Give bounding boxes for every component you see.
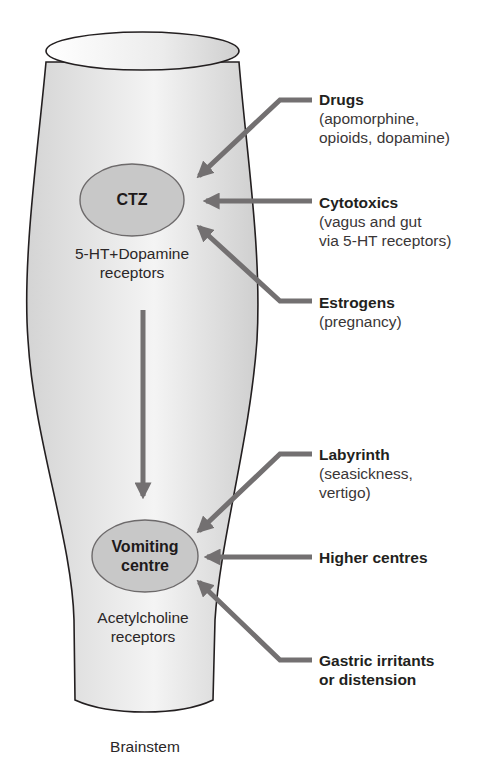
input-estrogens: Estrogens (pregnancy) (319, 293, 402, 331)
input-labyrinth: Labyrinth (seasickness, vertigo) (319, 445, 413, 502)
vc-receptors-line2: receptors (68, 627, 218, 646)
vomiting-centre-label-line1: Vomiting (95, 537, 195, 556)
input-drugs: Drugs (apomorphine, opioids, dopamine) (319, 90, 450, 147)
input-estrogens-detail-1: (pregnancy) (319, 312, 402, 331)
ctz-receptors: 5-HT+Dopamine receptors (57, 244, 207, 282)
vomiting-centre-label-line2: centre (95, 556, 195, 575)
input-estrogens-title: Estrogens (319, 293, 402, 312)
input-drugs-title: Drugs (319, 90, 450, 109)
ctz-receptors-line1: 5-HT+Dopamine (57, 244, 207, 263)
input-cytotoxics-title: Cytotoxics (319, 193, 451, 212)
input-labyrinth-detail-2: vertigo) (319, 483, 413, 502)
vc-receptors-line1: Acetylcholine (68, 608, 218, 627)
input-cytotoxics-detail-1: (vagus and gut (319, 212, 451, 231)
vomiting-centre-receptors: Acetylcholine receptors (68, 608, 218, 646)
tube-top-opening (46, 32, 239, 70)
input-higher-centres-title: Higher centres (319, 548, 428, 567)
ctz-receptors-line2: receptors (57, 263, 207, 282)
input-labyrinth-title: Labyrinth (319, 445, 413, 464)
input-cytotoxics: Cytotoxics (vagus and gut via 5-HT recep… (319, 193, 451, 250)
input-higher-centres: Higher centres (319, 548, 428, 567)
brainstem-label: Brainstem (80, 737, 210, 756)
ctz-label: CTZ (82, 190, 182, 209)
input-labyrinth-detail-1: (seasickness, (319, 464, 413, 483)
vomiting-centre-label: Vomiting centre (95, 537, 195, 575)
input-gastric-title-1: Gastric irritants (319, 651, 434, 670)
input-cytotoxics-detail-2: via 5-HT receptors) (319, 231, 451, 250)
input-gastric-title-2: or distension (319, 670, 434, 689)
input-gastric: Gastric irritants or distension (319, 651, 434, 689)
input-drugs-detail-1: (apomorphine, (319, 109, 450, 128)
input-drugs-detail-2: opioids, dopamine) (319, 128, 450, 147)
